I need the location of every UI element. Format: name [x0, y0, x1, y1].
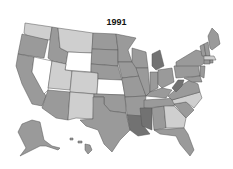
state-wyoming [65, 52, 92, 72]
state-rhode-island [210, 60, 213, 63]
state-north-dakota [92, 33, 118, 50]
state-connecticut [204, 60, 210, 64]
state-new-mexico [68, 92, 94, 120]
state-colorado [70, 71, 98, 94]
state-massachusetts [204, 56, 216, 60]
state-hawaii [70, 138, 92, 154]
state-new-jersey [200, 66, 205, 78]
state-indiana [150, 72, 158, 92]
state-florida [154, 128, 194, 156]
state-maine [208, 28, 220, 50]
state-arizona [42, 90, 70, 120]
state-michigan [152, 50, 164, 70]
state-wisconsin [132, 48, 148, 68]
state-alaska [18, 120, 60, 156]
state-kansas [97, 79, 125, 95]
us-map [0, 0, 233, 169]
state-south-dakota [91, 49, 118, 66]
state-ohio [158, 68, 174, 88]
state-montana [58, 28, 93, 53]
state-alabama [152, 106, 166, 130]
